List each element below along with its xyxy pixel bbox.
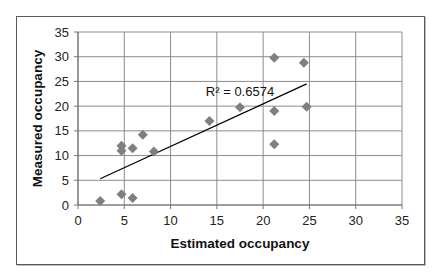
y-tick-label: 15	[55, 123, 69, 138]
data-point	[128, 143, 138, 153]
x-tick-label: 35	[395, 213, 409, 228]
y-axis-title: Measured occupancy	[30, 49, 45, 187]
data-point	[128, 193, 138, 203]
scatter-chart: 05101520253035 05101520253035 R² = 0.657…	[0, 0, 438, 280]
y-tick-label: 20	[55, 99, 69, 114]
axes	[74, 32, 402, 209]
annotations: R² = 0.6574	[206, 84, 274, 99]
data-points	[95, 53, 311, 206]
y-tick-label: 0	[62, 198, 69, 213]
x-tick-label: 10	[163, 213, 177, 228]
x-tick-label: 25	[302, 213, 316, 228]
x-tick-label: 15	[210, 213, 224, 228]
y-tick-label: 35	[55, 25, 69, 40]
data-point	[204, 116, 214, 126]
gridlines	[78, 32, 402, 205]
data-point	[117, 189, 127, 199]
x-axis-title: Estimated occupancy	[171, 236, 310, 251]
data-point	[269, 106, 279, 116]
x-tick-label: 0	[74, 213, 81, 228]
x-tick-label: 30	[348, 213, 362, 228]
data-point	[269, 139, 279, 149]
y-tick-label: 25	[55, 74, 69, 89]
y-tick-labels: 05101520253035	[55, 25, 69, 213]
y-tick-label: 30	[55, 49, 69, 64]
data-point	[235, 102, 245, 112]
data-point	[302, 102, 312, 112]
x-tick-labels: 05101520253035	[74, 213, 409, 228]
y-tick-label: 10	[55, 148, 69, 163]
data-point	[269, 53, 279, 63]
x-tick-label: 20	[256, 213, 270, 228]
y-tick-label: 5	[62, 173, 69, 188]
r-squared-label: R² = 0.6574	[206, 84, 274, 99]
data-point	[299, 58, 309, 68]
x-tick-label: 5	[121, 213, 128, 228]
